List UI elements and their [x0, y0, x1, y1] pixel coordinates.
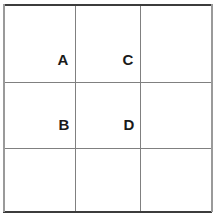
grid-diagram: [0, 0, 220, 218]
cell-label-c: C: [120, 52, 136, 67]
cell-label-d: D: [121, 117, 137, 132]
figure-background: [0, 0, 220, 218]
cell-label-a: A: [55, 52, 71, 67]
cell-label-b: B: [56, 117, 72, 132]
figure-canvas: A C B D: [0, 0, 220, 218]
